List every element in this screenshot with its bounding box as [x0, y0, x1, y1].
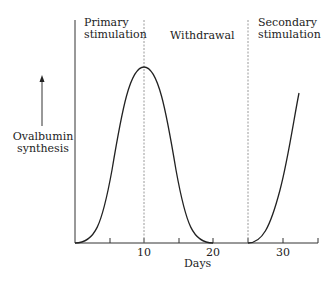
region-label-primary: Primary stimulation	[84, 17, 147, 41]
arrow-up-icon	[40, 75, 45, 82]
region-label-secondary-line2: stimulation	[258, 29, 321, 41]
region-label-secondary: Secondary stimulation	[258, 17, 321, 41]
x-axis-ticks	[110, 238, 318, 243]
x-tick-label-10: 10	[134, 247, 154, 259]
secondary-curve	[248, 93, 299, 243]
x-axis-label: Days	[184, 258, 211, 270]
y-axis-label-line2: synthesis	[12, 143, 74, 155]
region-label-primary-line2: stimulation	[84, 29, 147, 41]
x-tick-label-30: 30	[273, 247, 293, 259]
y-axis-label: Ovalbumin synthesis	[12, 131, 74, 155]
region-label-withdrawal: Withdrawal	[170, 30, 235, 42]
